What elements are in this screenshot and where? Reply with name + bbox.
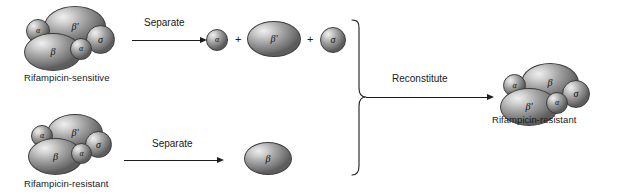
subunit-label: σ [574, 89, 579, 99]
subunit-alpha-reconstituted-2: α [546, 92, 568, 114]
figure-canvas: β′ α σ β α Rifampicin-sensitive Separate… [0, 0, 621, 196]
reconstituted-holoenzyme-caption: Rifampicin-resistant [492, 114, 576, 125]
subunit-label: β′ [525, 102, 532, 112]
reconstitute-label: Reconstitute [392, 73, 448, 84]
subunit-label: β [548, 78, 553, 88]
subunit-label: α [512, 81, 516, 89]
curly-brace [352, 20, 366, 175]
subunit-label: α [555, 99, 559, 107]
